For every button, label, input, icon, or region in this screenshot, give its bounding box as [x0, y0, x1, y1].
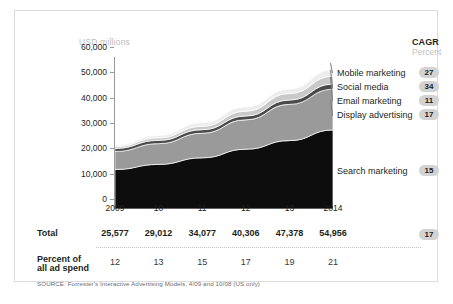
x-axis-tick-label: 2014: [310, 203, 356, 213]
legend-label-mobile-marketing: Mobile marketing: [337, 68, 406, 78]
percent-value: 12: [92, 257, 138, 267]
total-cagr-badge: 17: [419, 229, 439, 240]
y-axis-tick-label: 20,000: [63, 143, 107, 153]
x-axis-tick-label: 12: [223, 203, 269, 213]
y-axis-tick-mark: [110, 199, 114, 200]
cagr-badge-mobile-marketing: 27: [419, 67, 439, 78]
chart-card: USD millions CAGR Percent 010,00020,0003…: [14, 10, 438, 282]
source-note: SOURCE: Forrester's Interactive Advertis…: [37, 280, 260, 287]
x-axis-tick-label: 10: [136, 203, 182, 213]
x-axis-tick-label: 11: [179, 203, 225, 213]
percent-value: 19: [266, 257, 312, 267]
percent-value: 21: [310, 257, 356, 267]
percent-value: 17: [223, 257, 269, 267]
y-axis-tick-mark: [110, 47, 114, 48]
y-axis-tick-label: 50,000: [63, 67, 107, 77]
cagr-badge-display-advertising: 17: [419, 109, 439, 120]
total-value: 25,577: [92, 228, 138, 238]
legend-label-social-media: Social media: [337, 82, 389, 92]
cagr-badge-email-marketing: 11: [419, 95, 439, 106]
y-axis-tick-label: 40,000: [63, 93, 107, 103]
total-value: 29,012: [136, 228, 182, 238]
legend-label-display-advertising: Display advertising: [337, 110, 413, 120]
cagr-column-title: CAGR: [412, 37, 439, 47]
y-axis-tick-label: 60,000: [63, 42, 107, 52]
y-axis-tick-mark: [110, 174, 114, 175]
total-value: 54,956: [310, 228, 356, 238]
legend-label-email-marketing: Email marketing: [337, 96, 402, 106]
percent-value: 13: [136, 257, 182, 267]
area-series-group: [115, 57, 333, 209]
y-axis-tick-mark: [110, 123, 114, 124]
total-value: 47,378: [266, 228, 312, 238]
total-value: 34,077: [179, 228, 225, 238]
percent-row-label-line2: all ad spend: [37, 263, 89, 273]
cagr-badge-search-marketing: 15: [419, 165, 439, 176]
cagr-badge-social-media: 34: [419, 81, 439, 92]
stacked-area-plot: [115, 57, 333, 209]
y-axis-tick-label: 30,000: [63, 118, 107, 128]
legend-label-search-marketing: Search marketing: [337, 166, 408, 176]
y-axis-tick-mark: [110, 148, 114, 149]
table-divider: [96, 247, 421, 248]
percent-value: 15: [179, 257, 225, 267]
x-axis-tick-label: 13: [266, 203, 312, 213]
cagr-column-subtitle: Percent: [412, 47, 441, 57]
total-value: 40,306: [223, 228, 269, 238]
y-axis-tick-mark: [110, 72, 114, 73]
total-row-label: Total: [37, 228, 58, 238]
x-axis-tick-label: 2009: [92, 203, 138, 213]
y-axis-tick-mark: [110, 98, 114, 99]
y-axis-tick-label: 10,000: [63, 169, 107, 179]
